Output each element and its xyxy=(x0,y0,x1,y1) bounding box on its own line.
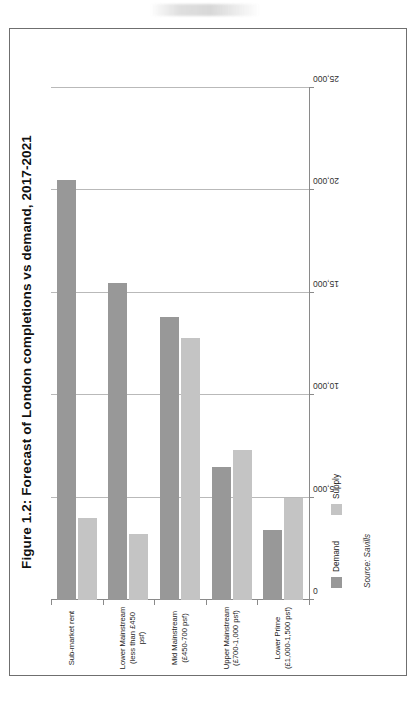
category-axis-tick xyxy=(103,600,104,605)
value-axis-tick xyxy=(309,497,314,498)
bar-group xyxy=(51,88,103,600)
bar-supply xyxy=(78,518,97,600)
category-label-line2: (£450-700 psf) xyxy=(180,606,190,670)
legend-swatch xyxy=(331,504,342,515)
category-label-line2: (£700-1,000 psf) xyxy=(231,606,241,670)
category-label: Upper Mainstream(£700-1,000 psf) xyxy=(222,606,241,670)
category-label: Lower Prime(£1,000-1,500 psf) xyxy=(273,606,292,670)
value-axis-tick xyxy=(309,87,314,88)
source-note: Source: Savills xyxy=(363,534,372,588)
category-label-line1: Lower Mainstream xyxy=(118,606,128,670)
legend-item: Supply xyxy=(331,474,342,515)
category-label-line1: Upper Mainstream xyxy=(222,606,232,670)
category-label-line2: (£1,000-1,500 psf) xyxy=(283,606,293,670)
bar-demand xyxy=(57,180,76,600)
category-label-line1: Sub-market rent xyxy=(67,606,77,670)
bar-demand xyxy=(263,530,282,600)
value-axis-tick-label: 20,000 xyxy=(313,176,371,186)
value-axis-tick-label: 5,000 xyxy=(313,484,371,494)
category-axis-tick xyxy=(257,600,258,605)
bar-supply xyxy=(129,534,148,600)
bar-supply xyxy=(284,498,303,600)
chart-title: Figure 1.2: Forecast of London completio… xyxy=(19,32,34,672)
category-label: Sub-market rent xyxy=(67,606,77,670)
rotated-chart-canvas: Figure 1.2: Forecast of London completio… xyxy=(13,32,403,672)
value-axis-tick xyxy=(309,189,314,190)
page-root: Figure 1.2: Forecast of London completio… xyxy=(0,0,416,704)
category-label-line1: Lower Prime xyxy=(273,606,283,670)
chart-legend: DemandSupply xyxy=(331,474,342,588)
legend-label: Demand xyxy=(332,541,341,572)
value-axis-tick xyxy=(309,394,314,395)
bar-demand xyxy=(212,467,231,600)
scan-artifact xyxy=(150,4,260,16)
category-axis-tick xyxy=(309,600,310,605)
category-axis-tick xyxy=(154,600,155,605)
value-axis-tick-label: 10,000 xyxy=(313,381,371,391)
legend-item: Demand xyxy=(331,541,342,588)
figure-frame: Figure 1.2: Forecast of London completio… xyxy=(9,28,407,676)
value-axis-tick-label: 15,000 xyxy=(313,279,371,289)
bar-group xyxy=(103,88,155,600)
value-axis-tick xyxy=(309,292,314,293)
legend-label: Supply xyxy=(332,474,341,499)
bar-demand xyxy=(160,317,179,600)
plot-area: 05,00010,00015,00020,00025,000 Sub-marke… xyxy=(51,88,309,600)
bar-supply xyxy=(181,338,200,600)
legend-swatch xyxy=(331,577,342,588)
category-axis-line xyxy=(309,88,310,600)
bar-group xyxy=(206,88,258,600)
category-label: Lower Mainstream(less than £450 psf) xyxy=(118,606,147,670)
category-axis-tick xyxy=(206,600,207,605)
category-label-line1: Mid Mainstream xyxy=(170,606,180,670)
bar-demand xyxy=(108,283,127,600)
value-axis-tick-label: 25,000 xyxy=(313,74,371,84)
category-label: Mid Mainstream(£450-700 psf) xyxy=(170,606,189,670)
bar-supply xyxy=(233,451,252,601)
bar-group xyxy=(154,88,206,600)
category-label-line2: (less than £450 psf) xyxy=(128,606,147,670)
category-axis-tick xyxy=(51,600,52,605)
bar-group xyxy=(257,88,309,600)
